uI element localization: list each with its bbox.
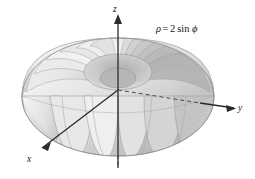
z-axis-arrowhead [114, 14, 122, 24]
y-axis-label: y [238, 104, 242, 114]
sine-function: sin [175, 23, 189, 34]
z-axis-label: z [113, 5, 117, 15]
equation-annotation: ρ=2sinϕ [156, 24, 197, 35]
y-axis-arrowhead [226, 105, 236, 112]
math-figure: z y x ρ=2sinϕ [0, 0, 255, 179]
equals-sign: = [161, 23, 170, 34]
phi-symbol: ϕ [189, 23, 197, 34]
x-axis-label: x [27, 155, 31, 165]
surface-plot-canvas [0, 0, 255, 179]
